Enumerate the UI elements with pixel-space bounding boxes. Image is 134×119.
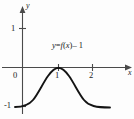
y-axis-label: y <box>26 2 30 10</box>
y-tick-label-one: 1 <box>11 24 15 33</box>
function-curve <box>15 68 110 108</box>
origin-label: 0 <box>13 71 17 80</box>
y-tick-label-negative-one: -1 <box>4 101 11 110</box>
equation-annotation: y=f(x)– 1 <box>52 41 83 50</box>
math-figure: y x 1 -1 0 1 2 y=f(x)– 1 <box>0 0 134 119</box>
y-axis-arrowhead <box>20 6 26 13</box>
x-tick-label-one: 1 <box>55 71 59 80</box>
x-tick-label-two: 2 <box>89 71 93 80</box>
x-axis-label: x <box>128 69 132 77</box>
equation-minus-one: – 1 <box>72 40 83 50</box>
graph-canvas <box>0 0 134 119</box>
